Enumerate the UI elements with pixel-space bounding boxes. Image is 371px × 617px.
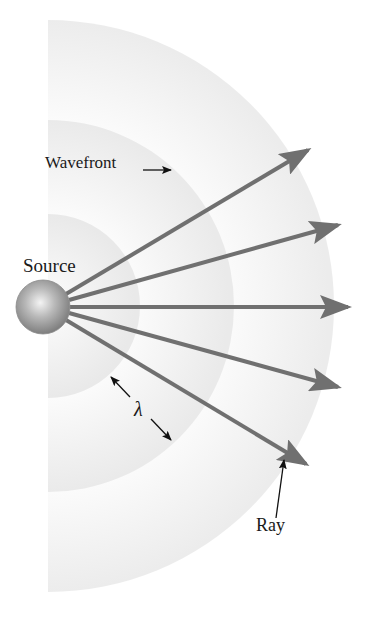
wavelength-symbol: λ bbox=[133, 398, 143, 420]
source-label: Source bbox=[23, 255, 76, 276]
source-sphere bbox=[16, 280, 70, 334]
wavefront-diagram: Source Wavefront λ Ray bbox=[0, 0, 371, 617]
wavefront-label: Wavefront bbox=[45, 153, 117, 172]
ray-label: Ray bbox=[256, 515, 285, 535]
